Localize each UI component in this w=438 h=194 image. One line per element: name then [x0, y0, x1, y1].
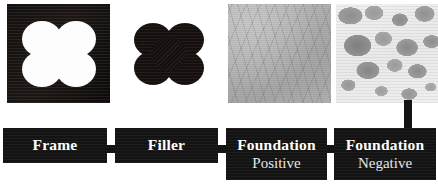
light-mottled-texture-icon — [336, 4, 438, 103]
label-foundation-negative-primary: Foundation — [346, 137, 425, 154]
connector-frame-to-filler — [106, 145, 115, 153]
label-box-foundation-positive: Foundation Positive — [226, 128, 327, 180]
panel-foundation-negative — [336, 4, 438, 103]
label-foundation-positive-secondary: Positive — [252, 155, 300, 171]
connector-filler-to-foundation-positive — [217, 145, 226, 153]
panel-foundation-positive — [228, 4, 331, 103]
cross-cutout-icon — [22, 21, 96, 87]
composite-structure-figure: Frame Filler Foundation Positive Foundat… — [0, 0, 438, 194]
label-filler-primary: Filler — [148, 137, 185, 154]
panel-filler — [117, 4, 220, 103]
panel-frame — [7, 4, 110, 103]
label-foundation-negative-secondary: Negative — [358, 155, 412, 171]
label-box-filler: Filler — [115, 128, 218, 163]
connector-foundation-negative-vertical — [404, 100, 412, 130]
label-foundation-positive-primary: Foundation — [237, 137, 316, 154]
label-box-frame: Frame — [3, 128, 107, 163]
label-frame-primary: Frame — [33, 137, 78, 154]
cross-solid-icon — [134, 23, 204, 85]
grey-woven-texture-icon — [228, 4, 331, 103]
label-box-foundation-negative: Foundation Negative — [334, 128, 436, 180]
